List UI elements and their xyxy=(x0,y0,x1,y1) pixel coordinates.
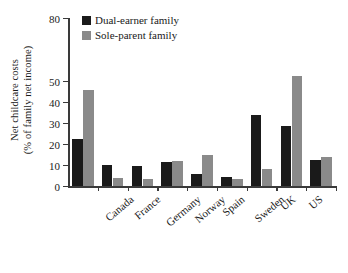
bar-sole-parent xyxy=(83,90,94,186)
x-axis-label-spain: Spain xyxy=(220,193,247,218)
bar-sole-parent xyxy=(262,169,273,186)
y-axis-title-text: Net childcare costs (% of family net inc… xyxy=(8,46,34,155)
chart-legend: Dual-earner family Sole-parent family xyxy=(82,13,179,43)
y-axis-tick: 0 xyxy=(63,186,68,187)
bar-sole-parent xyxy=(202,155,213,186)
legend-label-sole-parent: Sole-parent family xyxy=(95,28,177,43)
bar-dual-earner xyxy=(161,162,172,186)
bar-sole-parent xyxy=(321,157,332,186)
legend-label-dual-earner: Dual-earner family xyxy=(95,13,179,28)
y-axis-tick: 40 xyxy=(63,102,68,103)
y-axis-tick: 80 xyxy=(63,18,68,19)
bar-dual-earner xyxy=(221,177,232,186)
y-axis-tick-label: 10 xyxy=(49,160,60,172)
bar-dual-earner xyxy=(281,126,292,186)
x-axis-tick xyxy=(306,186,307,191)
bar-sole-parent xyxy=(113,178,124,186)
bar-sole-parent xyxy=(143,179,154,186)
y-axis-tick: 50 xyxy=(63,81,68,82)
y-axis-tick: 20 xyxy=(63,144,68,145)
plot-area: 0102030405080 CanadaFranceGermanyNorwayS… xyxy=(68,18,336,186)
y-axis-tick: 10 xyxy=(63,165,68,166)
x-axis-tick xyxy=(157,186,158,191)
bar-dual-earner xyxy=(102,165,113,186)
legend-item-sole-parent: Sole-parent family xyxy=(82,28,179,43)
x-axis-tick xyxy=(247,186,248,191)
y-axis-title-line-1: Net childcare costs xyxy=(9,59,20,141)
y-axis-tick-label: 30 xyxy=(49,118,60,130)
x-axis-tick xyxy=(336,186,337,191)
bar-dual-earner xyxy=(132,166,143,186)
bar-dual-earner xyxy=(251,115,262,186)
legend-item-dual-earner: Dual-earner family xyxy=(82,13,179,28)
bar-dual-earner xyxy=(310,160,321,186)
x-axis-label-sweden: Sweden xyxy=(252,193,286,225)
y-axis-line xyxy=(68,18,70,186)
x-axis-tick xyxy=(217,186,218,191)
y-axis-tick-label: 40 xyxy=(49,97,60,109)
x-axis-tick xyxy=(187,186,188,191)
bar-dual-earner xyxy=(191,174,202,186)
y-axis-tick: 30 xyxy=(63,123,68,124)
y-axis-tick-label: 20 xyxy=(49,139,60,151)
x-axis-line xyxy=(68,186,336,188)
bar-sole-parent xyxy=(232,179,243,186)
y-axis-tick-label: 50 xyxy=(49,76,60,88)
y-axis-tick-label: 80 xyxy=(49,13,60,25)
bar-dual-earner xyxy=(72,139,83,186)
y-axis-tick-label: 0 xyxy=(55,181,61,193)
y-axis-title-line-2: (% of family net income) xyxy=(21,46,34,155)
x-axis-tick xyxy=(98,186,99,191)
x-axis-label-france: France xyxy=(132,193,163,221)
legend-swatch-dual-earner xyxy=(82,16,91,25)
x-axis-tick xyxy=(276,186,277,191)
x-axis-tick xyxy=(128,186,129,191)
y-axis-title: Net childcare costs (% of family net inc… xyxy=(0,0,42,200)
bar-sole-parent xyxy=(292,76,303,186)
legend-swatch-sole-parent xyxy=(82,31,91,40)
x-axis-label-canada: Canada xyxy=(103,193,136,223)
bar-sole-parent xyxy=(172,161,183,186)
x-axis-label-us: US xyxy=(307,193,325,211)
chart-figure: Net childcare costs (% of family net inc… xyxy=(0,0,348,273)
